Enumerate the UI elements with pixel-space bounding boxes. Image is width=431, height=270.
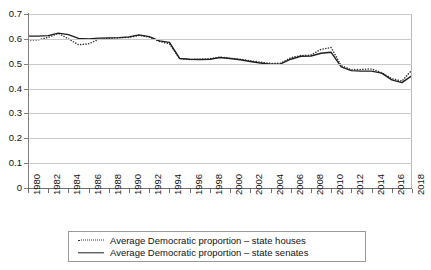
x-tick <box>169 189 170 193</box>
x-tick <box>149 189 150 193</box>
gridline <box>28 14 412 15</box>
x-tick <box>271 189 272 193</box>
x-tick <box>68 189 69 193</box>
chart-legend: Average Democratic proportion – state ho… <box>68 231 366 262</box>
x-tick-label: 1986 <box>93 174 103 195</box>
y-tick <box>24 89 28 90</box>
x-tick-label: 1996 <box>194 174 204 195</box>
y-tick-label: 0.3 <box>0 109 22 119</box>
x-tick <box>412 189 413 193</box>
plot-frame <box>28 14 412 188</box>
y-tick <box>24 163 28 164</box>
y-tick-label: 0.1 <box>0 158 22 168</box>
legend-swatch-solid-icon <box>78 248 104 258</box>
gridline <box>28 138 412 139</box>
x-tick-label: 1980 <box>32 174 42 195</box>
gridline <box>28 39 412 40</box>
gridline <box>28 89 412 90</box>
y-axis-line <box>28 13 29 189</box>
x-tick-label: 2010 <box>335 174 345 195</box>
y-tick-label: 0.2 <box>0 134 22 144</box>
x-tick-label: 2016 <box>396 174 406 195</box>
x-tick-label: 1998 <box>214 174 224 195</box>
x-tick <box>129 189 130 193</box>
x-tick-label: 2006 <box>295 174 305 195</box>
y-tick-label: 0.4 <box>0 84 22 94</box>
x-tick <box>230 189 231 193</box>
x-tick-label: 1984 <box>72 174 82 195</box>
x-tick <box>291 189 292 193</box>
gridline <box>28 113 412 114</box>
x-tick-label: 1992 <box>153 174 163 195</box>
x-tick <box>372 189 373 193</box>
legend-label-senates: Average Democratic proportion – state se… <box>110 247 308 258</box>
x-tick <box>190 189 191 193</box>
x-tick <box>351 189 352 193</box>
y-tick <box>24 39 28 40</box>
x-tick-label: 2000 <box>234 174 244 195</box>
x-tick <box>392 189 393 193</box>
gridline <box>28 163 412 164</box>
y-tick-label: 0 <box>0 183 22 193</box>
x-tick <box>210 189 211 193</box>
gridline <box>28 64 412 65</box>
x-tick-label: 2014 <box>376 174 386 195</box>
x-tick-label: 1990 <box>133 174 143 195</box>
x-tick <box>89 189 90 193</box>
y-tick <box>24 14 28 15</box>
x-tick-label: 2018 <box>416 174 426 195</box>
x-tick-label: 1994 <box>173 174 183 195</box>
x-tick-label: 2004 <box>275 174 285 195</box>
y-tick <box>24 138 28 139</box>
x-tick <box>28 189 29 193</box>
y-tick <box>24 113 28 114</box>
x-tick <box>331 189 332 193</box>
line-chart: 00.10.20.30.40.50.60.7 19801982198419861… <box>0 0 431 270</box>
x-tick-label: 1982 <box>52 174 62 195</box>
y-tick <box>24 64 28 65</box>
y-tick-label: 0.7 <box>0 9 22 19</box>
x-tick <box>48 189 49 193</box>
x-tick-label: 2008 <box>315 174 325 195</box>
x-tick <box>250 189 251 193</box>
x-tick-label: 2002 <box>254 174 264 195</box>
legend-item-senates: Average Democratic proportion – state se… <box>69 247 365 260</box>
x-tick <box>311 189 312 193</box>
legend-swatch-dotted-icon <box>78 235 104 245</box>
x-tick-label: 1988 <box>113 174 123 195</box>
x-tick-label: 2012 <box>355 174 365 195</box>
x-tick <box>109 189 110 193</box>
y-tick-label: 0.5 <box>0 59 22 69</box>
legend-label-houses: Average Democratic proportion – state ho… <box>110 235 306 246</box>
y-tick-label: 0.6 <box>0 34 22 44</box>
plot-area <box>28 14 412 188</box>
legend-item-houses: Average Democratic proportion – state ho… <box>69 234 365 247</box>
